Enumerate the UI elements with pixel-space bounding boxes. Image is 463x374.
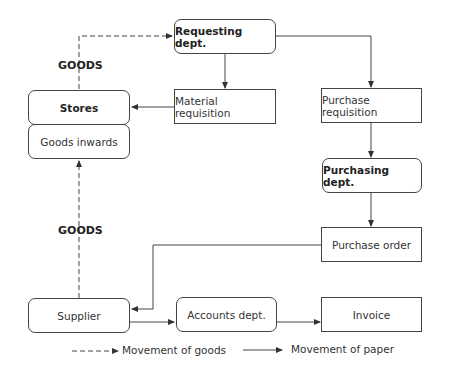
node-stores: Stores — [28, 90, 130, 125]
node-label: Purchase order — [332, 239, 411, 251]
node-purchasing-dept: Purchasing dept. — [322, 158, 422, 193]
node-material-requisition: Material requisition — [174, 89, 276, 124]
node-purchase-requisition: Purchase requisition — [321, 88, 422, 123]
node-label: Purchasing dept. — [323, 164, 421, 188]
legend-goods-label: Movement of goods — [122, 344, 226, 356]
goods-label-bottom: GOODS — [58, 224, 103, 237]
node-label: Accounts dept. — [187, 309, 265, 321]
node-purchase-order: Purchase order — [321, 227, 422, 262]
node-invoice: Invoice — [321, 297, 422, 332]
node-requesting-dept: Requesting dept. — [174, 19, 276, 54]
node-label: Purchase requisition — [322, 94, 421, 118]
node-label: Invoice — [353, 309, 391, 321]
node-accounts-dept: Accounts dept. — [176, 297, 277, 332]
node-label: Goods inwards — [40, 136, 117, 148]
goods-label-top: GOODS — [58, 59, 103, 72]
node-label: Supplier — [57, 310, 100, 322]
legend-paper-label: Movement of paper — [291, 343, 394, 355]
node-label: Stores — [60, 102, 98, 114]
node-goods-inwards: Goods inwards — [28, 124, 130, 159]
paper-arrow-requesting-to-purchase-req — [276, 36, 371, 87]
node-supplier: Supplier — [28, 298, 130, 333]
node-label: Material requisition — [175, 95, 275, 119]
node-label: Requesting dept. — [175, 25, 275, 49]
